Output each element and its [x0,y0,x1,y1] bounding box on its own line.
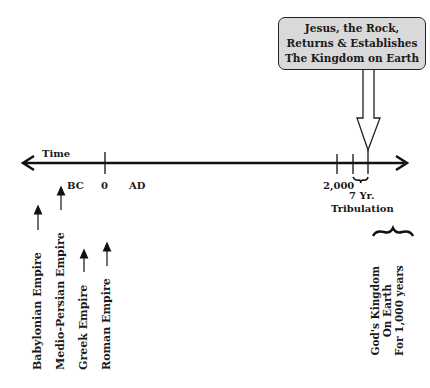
kingdom-line-1: God's Kingdom [369,265,381,356]
bc-label: BC [67,180,84,191]
callout-line-1: Jesus, the Rock, [305,21,399,36]
empire-babylonian: Babylonian Empire [31,252,44,370]
empire-medio-persian: Medio-Persian Empire [54,232,67,370]
time-axis-label: Time [42,148,70,159]
down-arrow-icon [357,70,380,150]
callout-line-3: The Kingdom on Earth [285,51,419,66]
tribulation-label: Tribulation [331,203,394,214]
kingdom-line-2: On Earth [381,265,393,356]
kingdom-line-3: For 1,000 years [393,265,405,356]
empire-roman: Roman Empire [100,278,113,370]
millennial-kingdom-label: God's Kingdom On Earth For 1,000 years [369,265,405,356]
tribulation-years-label: 7 Yr. [349,190,374,201]
callout-line-2: Returns & Establishes [287,36,418,51]
timeline-axis [23,156,407,170]
kingdom-brace-icon [373,228,413,236]
zero-label: 0 [101,180,108,191]
ad-label: AD [129,180,145,191]
tribulation-brace-icon [353,177,368,183]
empire-greek: Greek Empire [77,285,90,370]
return-callout-box: Jesus, the Rock, Returns & Establishes T… [278,17,426,70]
